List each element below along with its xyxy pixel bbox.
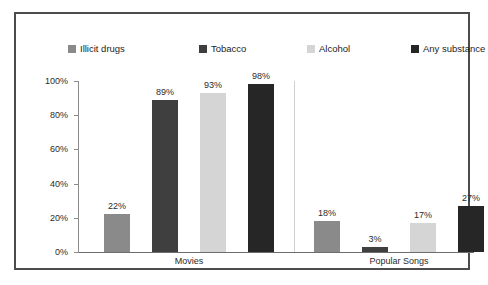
bar-value-label: 89% — [156, 87, 174, 97]
legend-label: Tobacco — [211, 44, 246, 54]
bar-popular-songs-alcohol: 17% — [410, 223, 436, 252]
legend-item-alcohol[interactable]: Alcohol — [307, 41, 350, 57]
bar-movies-alcohol: 93% — [200, 93, 226, 252]
bar-value-label: 3% — [368, 234, 381, 244]
bar-value-label: 22% — [108, 201, 126, 211]
y-axis-line — [78, 81, 79, 252]
group-divider — [294, 81, 295, 252]
group-label-popular-songs: Popular Songs — [369, 256, 428, 266]
legend-item-illicit-drugs[interactable]: Illicit drugs — [68, 41, 125, 57]
bar-movies-any-substance: 98% — [248, 84, 274, 252]
bar-popular-songs-illicit-drugs: 18% — [314, 221, 340, 252]
y-tick-mark: 0% — [74, 252, 79, 253]
chart-figure: Illicit drugsTobaccoAlcoholAny substance… — [0, 0, 488, 285]
legend-label: Illicit drugs — [80, 44, 125, 54]
y-tick-mark: 20% — [74, 218, 79, 219]
legend-swatch-icon — [411, 45, 419, 53]
y-tick-label: 60% — [50, 144, 68, 154]
legend-label: Any substance — [423, 44, 485, 54]
bar-movies-illicit-drugs: 22% — [104, 214, 130, 252]
bar-value-label: 98% — [252, 71, 270, 81]
chart-legend: Illicit drugsTobaccoAlcoholAny substance — [68, 41, 448, 57]
bar-popular-songs-any-substance: 27% — [458, 206, 484, 252]
bar-movies-tobacco: 89% — [152, 100, 178, 252]
y-tick-label: 40% — [50, 179, 68, 189]
legend-swatch-icon — [307, 45, 315, 53]
y-tick-label: 80% — [50, 110, 68, 120]
legend-item-tobacco[interactable]: Tobacco — [199, 41, 246, 57]
y-tick-mark: 40% — [74, 184, 79, 185]
y-tick-label: 100% — [45, 76, 68, 86]
bar-value-label: 18% — [318, 208, 336, 218]
bar-value-label: 93% — [204, 80, 222, 90]
y-tick-label: 0% — [55, 247, 68, 257]
legend-swatch-icon — [68, 45, 76, 53]
legend-label: Alcohol — [319, 44, 350, 54]
legend-swatch-icon — [199, 45, 207, 53]
legend-item-any-substance[interactable]: Any substance — [411, 41, 485, 57]
plot-area: 0%20%40%60%80%100% 22%89%93%98%18%3%17%2… — [78, 72, 474, 252]
chart-frame: Illicit drugsTobaccoAlcoholAny substance… — [14, 12, 470, 270]
y-tick-mark: 60% — [74, 149, 79, 150]
bar-value-label: 27% — [462, 193, 480, 203]
x-axis-line — [78, 252, 474, 253]
y-tick-label: 20% — [50, 213, 68, 223]
y-tick-mark: 80% — [74, 115, 79, 116]
bar-value-label: 17% — [414, 210, 432, 220]
bar-popular-songs-tobacco: 3% — [362, 247, 388, 252]
group-label-movies: Movies — [175, 256, 204, 266]
y-tick-mark: 100% — [74, 81, 79, 82]
